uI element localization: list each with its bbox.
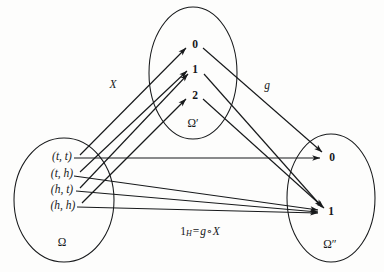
arrow-th-to-c1 — [74, 176, 318, 210]
element-omega-double-prime-0: 0 — [329, 152, 335, 164]
element-omega-double-prime-1: 1 — [328, 206, 334, 218]
figure-canvas: (t, t) (t, h) (h, t) (h, h) Ω 0 1 2 Ω′ 0… — [0, 0, 384, 272]
arrows-map-X — [80, 48, 188, 203]
formula-outer-map: g — [200, 225, 206, 237]
element-hh: (h, h) — [51, 200, 76, 212]
arrow-m0-to-c0 — [203, 48, 322, 152]
arrow-m2-to-c1 — [203, 99, 324, 208]
map-label-X: X — [109, 79, 116, 91]
arrow-hh-to-2 — [82, 99, 186, 203]
formula-subscript: H — [186, 229, 192, 238]
composition-formula: 1H = g∘X — [180, 226, 219, 239]
element-omega-prime-2: 2 — [192, 90, 198, 102]
arrows-map-identity — [74, 158, 320, 213]
element-omega-prime-1: 1 — [192, 64, 198, 76]
map-label-g: g — [264, 80, 270, 92]
set-label-omega-double-prime: Ω″ — [323, 239, 336, 251]
arrow-ht-to-c1 — [76, 191, 318, 212]
arrow-th-to-1 — [80, 71, 187, 172]
element-th: (t, h) — [51, 168, 73, 180]
element-omega-prime-0: 0 — [192, 39, 198, 51]
arrows-map-g — [203, 48, 324, 208]
arrow-tt-to-0 — [80, 48, 186, 155]
formula-inner-map: X — [213, 225, 220, 237]
formula-equals: = — [193, 225, 200, 237]
set-label-omega-prime: Ω′ — [187, 118, 198, 130]
arrow-m1-to-c1 — [204, 74, 322, 207]
element-tt: (t, t) — [52, 151, 72, 163]
set-label-omega: Ω — [58, 237, 67, 249]
element-ht: (h, t) — [51, 184, 73, 196]
